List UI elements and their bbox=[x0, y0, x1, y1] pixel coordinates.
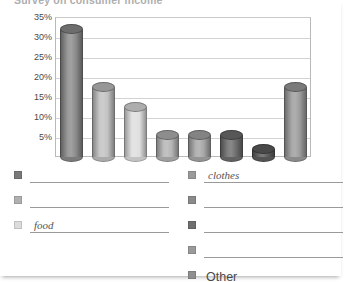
answer-rule bbox=[204, 182, 343, 183]
y-axis-tick: 30% bbox=[16, 33, 52, 42]
legend-column-left: food bbox=[14, 168, 179, 243]
bar-cylinder bbox=[220, 130, 243, 157]
answer-rule bbox=[30, 232, 169, 233]
legend-item[interactable] bbox=[188, 243, 348, 268]
legend-item[interactable] bbox=[188, 193, 348, 218]
legend-blank-field[interactable] bbox=[30, 168, 179, 185]
legend-column-right: clothesOther bbox=[188, 168, 348, 282]
bar-cylinder bbox=[188, 130, 211, 157]
legend-item[interactable]: Other bbox=[188, 268, 348, 282]
legend-swatch bbox=[188, 246, 196, 254]
cylinder-top bbox=[124, 102, 147, 112]
cylinder-body bbox=[92, 87, 115, 157]
y-axis-tick: 20% bbox=[16, 73, 52, 82]
y-axis-tick: 5% bbox=[16, 133, 52, 142]
bar-cylinder bbox=[124, 102, 147, 157]
y-axis-tick: 15% bbox=[16, 93, 52, 102]
cylinder-top bbox=[188, 130, 211, 140]
answer-rule bbox=[204, 232, 343, 233]
legend-blank-field[interactable] bbox=[204, 193, 348, 210]
chart-title: Survey on consumer income bbox=[14, 0, 314, 6]
legend-item[interactable] bbox=[188, 218, 348, 243]
legend-swatch bbox=[14, 171, 22, 179]
bar-cylinder bbox=[284, 82, 307, 157]
legend-item-label: Other bbox=[206, 270, 237, 282]
cylinder-body bbox=[284, 87, 307, 157]
legend-swatch bbox=[14, 221, 22, 229]
y-axis-tick: 25% bbox=[16, 53, 52, 62]
cylinder-top bbox=[284, 82, 307, 92]
legend-blank-field[interactable] bbox=[204, 243, 348, 260]
legend-swatch bbox=[188, 171, 196, 179]
answer-rule bbox=[30, 182, 169, 183]
legend-item[interactable]: food bbox=[14, 218, 179, 243]
legend-blank-field[interactable] bbox=[30, 193, 179, 210]
cylinder-top bbox=[252, 144, 275, 154]
chart-legend: food clothesOther bbox=[0, 168, 341, 273]
y-axis-labels: 35%30%25%20%15%10%5% bbox=[16, 8, 52, 164]
legend-blank-field[interactable]: food bbox=[30, 218, 179, 235]
cylinder-top bbox=[156, 130, 179, 140]
bar-chart: 35%30%25%20%15%10%5% bbox=[0, 8, 341, 164]
answer-rule bbox=[204, 207, 343, 208]
legend-blank-field[interactable]: clothes bbox=[204, 168, 348, 185]
legend-item[interactable]: clothes bbox=[188, 168, 348, 193]
legend-item[interactable] bbox=[14, 168, 179, 193]
bar-cylinder bbox=[92, 82, 115, 157]
answer-rule bbox=[204, 257, 343, 258]
legend-blank-field[interactable] bbox=[204, 218, 348, 235]
y-axis-tick: 35% bbox=[16, 13, 52, 22]
cylinder-top bbox=[60, 24, 83, 34]
cylinder-body bbox=[124, 107, 147, 157]
bar-cylinder bbox=[60, 24, 83, 157]
legend-swatch bbox=[188, 221, 196, 229]
legend-swatch bbox=[188, 271, 196, 279]
legend-label: Other bbox=[204, 268, 348, 282]
bar-cylinder bbox=[252, 144, 275, 157]
cylinder-body bbox=[60, 29, 83, 157]
y-axis-tick: 10% bbox=[16, 113, 52, 122]
answer-rule bbox=[30, 207, 169, 208]
legend-swatch bbox=[14, 196, 22, 204]
legend-item-label: food bbox=[34, 219, 54, 231]
cylinder-top bbox=[220, 130, 243, 140]
legend-swatch bbox=[188, 196, 196, 204]
worksheet-card: Survey on consumer income 35%30%25%20%15… bbox=[0, 0, 341, 276]
bar-series bbox=[55, 17, 311, 157]
legend-item-label: clothes bbox=[208, 169, 239, 181]
bar-cylinder bbox=[156, 130, 179, 157]
cylinder-top bbox=[92, 82, 115, 92]
legend-item[interactable] bbox=[14, 193, 179, 218]
